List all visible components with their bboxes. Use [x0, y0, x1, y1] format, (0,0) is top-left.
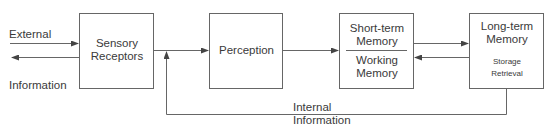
ltm-memory-line: Memory	[470, 33, 544, 46]
long-term-line: Long-term	[470, 20, 544, 33]
short-term-line: Short-term	[340, 22, 414, 35]
external-label: External	[9, 28, 51, 41]
perception-label: Perception	[210, 44, 283, 57]
information-label: Information	[9, 79, 67, 92]
working-memory-label: Working Memory	[340, 54, 414, 80]
storage-line: Storage	[470, 56, 544, 68]
working-line: Working	[340, 54, 414, 67]
receptors-line: Receptors	[80, 50, 154, 63]
short-term-memory-label: Short-term Memory	[340, 22, 414, 48]
perception-line: Perception	[210, 44, 283, 57]
internal-line: Internal	[293, 101, 351, 114]
retrieval-line: Retrieval	[470, 68, 544, 80]
memory-line-2: Memory	[340, 67, 414, 80]
long-term-memory-label: Long-term Memory	[470, 20, 544, 46]
information-line: Information	[293, 114, 351, 127]
sensory-line: Sensory	[80, 37, 154, 50]
ltm-sub-label: Storage Retrieval	[470, 56, 544, 80]
memory-line: Memory	[340, 35, 414, 48]
sensory-receptors-label: Sensory Receptors	[80, 37, 154, 63]
internal-information-label: Internal Information	[293, 101, 351, 127]
